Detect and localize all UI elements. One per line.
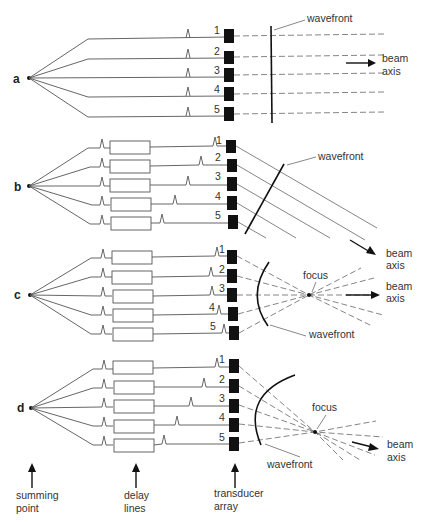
focus-label: focus bbox=[303, 269, 328, 281]
beam-axis-label: axis bbox=[387, 451, 406, 463]
delay-line-box bbox=[114, 381, 154, 394]
transducer-array-label: array bbox=[214, 500, 239, 512]
element-number: 5 bbox=[210, 320, 216, 332]
arrow-up-icon bbox=[231, 463, 239, 472]
transducer-element bbox=[227, 250, 237, 264]
element-number: 5 bbox=[215, 209, 221, 221]
transducer-element bbox=[227, 269, 237, 283]
transducer-element bbox=[228, 307, 238, 321]
transducer-element bbox=[226, 140, 236, 153]
delay-line-box bbox=[112, 271, 152, 284]
element-number: 4 bbox=[214, 83, 220, 95]
transducer-element bbox=[228, 215, 238, 229]
transducer-element bbox=[229, 326, 239, 340]
delay-line-box bbox=[113, 309, 153, 322]
element-number: 5 bbox=[219, 431, 225, 443]
beam-axis-label: axis bbox=[382, 65, 401, 77]
element-number: 5 bbox=[214, 103, 220, 115]
panel-label-d: d bbox=[17, 401, 24, 415]
focus-label: focus bbox=[312, 401, 337, 413]
wavefront-label: wavefront bbox=[308, 328, 355, 340]
transducer-element bbox=[229, 399, 239, 413]
delay-line-box bbox=[114, 400, 154, 413]
transducer-element bbox=[229, 437, 239, 451]
panel-label-a: a bbox=[13, 72, 20, 86]
wavefront-label: wavefront bbox=[317, 150, 364, 162]
arrow-up-icon bbox=[132, 463, 140, 472]
delay-line-box bbox=[113, 328, 153, 341]
beam-axis-label: axis bbox=[386, 292, 405, 304]
transducer-array-label: transducer bbox=[214, 487, 264, 499]
wavefront-line bbox=[245, 164, 284, 234]
delay-line-box bbox=[112, 251, 152, 264]
panel-b: b 1 2 3 4 5 bbox=[14, 134, 413, 271]
delay-line-box bbox=[111, 198, 151, 211]
transducer-element bbox=[229, 418, 239, 432]
beam-axis-label: beam bbox=[387, 438, 414, 450]
transducer-element bbox=[227, 159, 237, 172]
arrow-right-icon bbox=[368, 59, 376, 67]
element-number: 4 bbox=[219, 411, 225, 423]
transducer-element bbox=[229, 379, 239, 393]
delay-line-box bbox=[113, 290, 153, 303]
element-number: 2 bbox=[214, 45, 220, 57]
element-number: 1 bbox=[219, 243, 225, 255]
transducer-element bbox=[227, 196, 237, 210]
arrow-down-right-icon bbox=[366, 246, 376, 255]
delay-line-box bbox=[110, 160, 150, 173]
bottom-labels: summing point delay lines transducer arr… bbox=[16, 463, 264, 514]
delay-line-box bbox=[110, 179, 150, 192]
beam-axis-label: axis bbox=[386, 259, 405, 271]
wavefront-label: wavefront bbox=[306, 12, 353, 24]
transducer-element bbox=[224, 51, 234, 64]
arrow-right-icon bbox=[368, 443, 379, 451]
element-number: 3 bbox=[215, 170, 221, 182]
arrow-right-icon bbox=[371, 291, 380, 299]
element-number: 4 bbox=[209, 301, 215, 313]
transducer-element bbox=[224, 68, 234, 82]
panel-a: a 1 2 3 4 5 wavefront bbox=[13, 12, 409, 123]
element-number: 3 bbox=[219, 282, 225, 294]
element-number: 4 bbox=[215, 190, 221, 202]
summing-point-label: point bbox=[16, 502, 39, 514]
element-number: 3 bbox=[214, 64, 220, 76]
summing-point-label: summing bbox=[16, 489, 59, 501]
element-number: 2 bbox=[219, 263, 225, 275]
transducer-element bbox=[224, 87, 234, 101]
delay-lines-label: lines bbox=[124, 502, 146, 514]
panel-d: d 1 2 3 4 5 bbox=[17, 353, 414, 470]
delay-line-box bbox=[114, 420, 154, 433]
panel-c: c 1 2 3 4 5 bbox=[14, 243, 413, 341]
wavefront-line bbox=[271, 26, 272, 123]
delay-line-box bbox=[113, 361, 153, 374]
beam-axis-label: beam bbox=[386, 247, 413, 259]
panel-label-c: c bbox=[14, 288, 21, 302]
element-number: 1 bbox=[214, 24, 220, 36]
delay-line-box bbox=[110, 141, 150, 154]
transducer-element bbox=[227, 288, 237, 302]
beam-axis-label: beam bbox=[382, 52, 409, 64]
delay-line-box bbox=[114, 439, 154, 452]
transducer-element bbox=[227, 177, 237, 191]
delay-line-box bbox=[111, 217, 151, 230]
element-number: 2 bbox=[219, 373, 225, 385]
element-number: 3 bbox=[219, 392, 225, 404]
element-number: 2 bbox=[215, 151, 221, 163]
focus-point-d bbox=[313, 430, 317, 434]
transducer-element bbox=[224, 29, 234, 43]
wavefront-label: wavefront bbox=[266, 458, 313, 470]
delay-lines-label: delay bbox=[124, 489, 150, 501]
wavefront-curve bbox=[257, 262, 269, 326]
element-number: 1 bbox=[219, 353, 225, 365]
beam-axis-label: beam bbox=[386, 280, 413, 292]
element-number: 1 bbox=[216, 134, 222, 146]
arrow-up-icon bbox=[28, 463, 36, 472]
transducer-element bbox=[229, 359, 239, 373]
focus-point-c bbox=[307, 293, 311, 297]
panel-label-b: b bbox=[14, 180, 21, 194]
transducer-element bbox=[224, 107, 234, 121]
beamforming-diagram: a 1 2 3 4 5 wavefront bbox=[0, 0, 428, 522]
